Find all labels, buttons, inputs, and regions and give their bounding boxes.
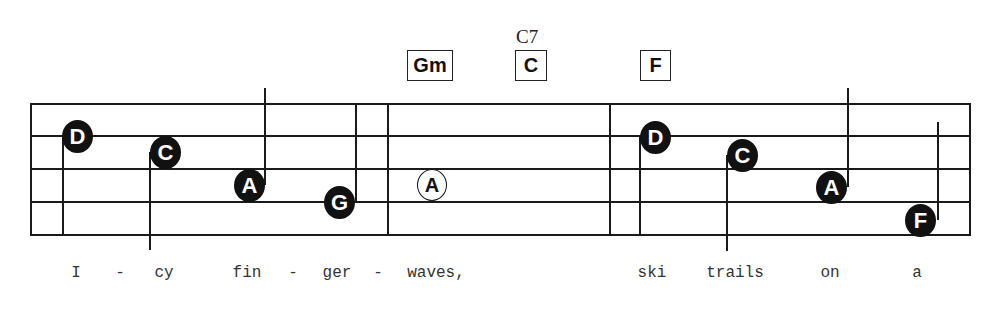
staff-line-1 xyxy=(30,103,971,105)
note-c: C xyxy=(727,139,758,172)
lyric-hyphen: - xyxy=(115,264,125,282)
note-g: G xyxy=(324,186,355,219)
lyric-syllable: ger xyxy=(323,264,352,282)
staff-line-5 xyxy=(30,234,971,236)
lyric-syllable: fin xyxy=(233,264,262,282)
lyric-syllable: a xyxy=(912,264,922,282)
note-d: D xyxy=(62,120,93,153)
lyric-syllable: trails xyxy=(706,264,764,282)
lyric-hyphen: - xyxy=(373,264,383,282)
note-stem xyxy=(264,88,266,185)
barline-end xyxy=(969,103,971,236)
note-f: F xyxy=(905,204,936,237)
note-stem xyxy=(62,136,64,235)
note-stem xyxy=(726,155,728,251)
lyric-syllable: on xyxy=(820,264,839,282)
note-a: A xyxy=(816,171,847,204)
lyric-syllable: I xyxy=(71,264,81,282)
note-a: A xyxy=(234,169,265,202)
lyric-hyphen: - xyxy=(288,264,298,282)
lyric-syllable: waves, xyxy=(407,264,465,282)
note-stem xyxy=(847,88,849,187)
chord-gm: Gm xyxy=(407,50,453,81)
note-stem xyxy=(639,137,641,235)
chord-f: F xyxy=(640,50,671,81)
note-d: D xyxy=(640,121,671,154)
chord-alt-c7: C7 xyxy=(516,26,538,48)
staff-line-3 xyxy=(30,168,971,170)
barline-2 xyxy=(609,103,611,236)
lyric-syllable: ski xyxy=(638,264,667,282)
note-a-open: A xyxy=(417,169,447,201)
sheet-music: D C A G A D C A F Gm C7 C F I - cy fin -… xyxy=(0,0,985,309)
note-stem xyxy=(937,122,939,220)
note-stem xyxy=(149,152,151,250)
note-c: C xyxy=(150,136,181,169)
chord-c: C xyxy=(515,50,547,81)
lyric-syllable: cy xyxy=(154,264,173,282)
note-stem xyxy=(355,103,357,202)
barline-start xyxy=(30,103,32,236)
barline-1 xyxy=(387,103,389,236)
